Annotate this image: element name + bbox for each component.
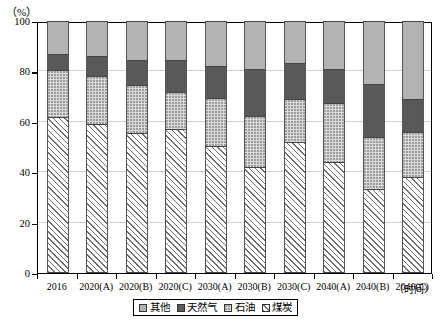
bar-segment-天然气 <box>323 69 345 103</box>
bar-segment-其他 <box>165 21 187 60</box>
x-axis-tick-label: 2030(C) <box>272 281 316 292</box>
bar-segment-煤炭 <box>86 124 108 273</box>
bar-2030(A) <box>205 21 227 273</box>
x-axis-tick-label: 2020(A) <box>74 281 118 292</box>
legend-label: 其他 <box>150 302 170 314</box>
x-axis-tick-label: 2030(A) <box>193 281 237 292</box>
bar-segment-煤炭 <box>47 117 69 273</box>
bar-2020(B) <box>126 21 148 273</box>
bar-segment-天然气 <box>126 60 148 85</box>
x-axis-tick-label: 2016 <box>35 281 79 292</box>
bar-segment-煤炭 <box>244 167 266 273</box>
x-axis-tick-mark <box>432 274 433 279</box>
bar-segment-石油 <box>244 116 266 168</box>
bar-segment-天然气 <box>165 60 187 92</box>
legend-swatch-煤炭 <box>262 304 270 312</box>
x-axis-tick-label: 2040(A) <box>311 281 355 292</box>
x-axis-tick-label: 2020(C) <box>153 281 197 292</box>
y-axis-tick-label: 0 <box>0 269 30 279</box>
bar-segment-煤炭 <box>323 162 345 273</box>
legend-label: 天然气 <box>187 302 217 314</box>
bar-segment-煤炭 <box>126 133 148 273</box>
bar-segment-石油 <box>402 132 424 177</box>
x-axis-tick-label: 2030(B) <box>232 281 276 292</box>
bar-2040(B) <box>363 21 385 273</box>
legend-item-煤炭[interactable]: 煤炭 <box>262 302 293 314</box>
bar-segment-其他 <box>86 21 108 56</box>
x-axis-tick-mark <box>77 274 78 279</box>
legend-swatch-石油 <box>224 304 232 312</box>
x-axis-tick-mark <box>156 274 157 279</box>
legend-item-石油[interactable]: 石油 <box>224 302 255 314</box>
bar-segment-其他 <box>126 21 148 60</box>
bar-segment-天然气 <box>86 56 108 76</box>
bar-2040(A) <box>323 21 345 273</box>
bar-segment-煤炭 <box>363 189 385 273</box>
bar-2030(B) <box>244 21 266 273</box>
bar-segment-其他 <box>244 21 266 69</box>
legend-label: 石油 <box>235 302 255 314</box>
legend-label: 煤炭 <box>272 302 292 314</box>
y-axis-tick-label: 60 <box>0 118 30 128</box>
bar-segment-煤炭 <box>284 142 306 273</box>
bar-segment-天然气 <box>363 84 385 137</box>
chart-legend: 其他天然气石油煤炭 <box>133 299 298 316</box>
bar-segment-天然气 <box>205 66 227 98</box>
bar-segment-其他 <box>47 21 69 54</box>
plot-area <box>37 22 432 274</box>
bar-2040(C) <box>402 21 424 273</box>
legend-item-其他[interactable]: 其他 <box>139 302 170 314</box>
bar-segment-天然气 <box>284 63 306 100</box>
y-axis-tick-label: 100 <box>0 17 30 27</box>
x-axis-tick-mark <box>393 274 394 279</box>
bar-segment-石油 <box>47 70 69 117</box>
bar-2020(C) <box>165 21 187 273</box>
legend-swatch-天然气 <box>177 304 185 312</box>
y-axis-tick-label: 40 <box>0 168 30 178</box>
bar-segment-其他 <box>205 21 227 66</box>
x-axis-tick-mark <box>314 274 315 279</box>
bar-segment-煤炭 <box>205 146 227 273</box>
x-axis-tick-label: 2040(B) <box>351 281 395 292</box>
bar-segment-天然气 <box>402 99 424 132</box>
bar-2016 <box>47 21 69 273</box>
bar-segment-石油 <box>126 85 148 133</box>
x-axis-tick-mark <box>274 274 275 279</box>
legend-item-天然气[interactable]: 天然气 <box>177 302 218 314</box>
x-axis-tick-mark <box>235 274 236 279</box>
bar-segment-煤炭 <box>165 129 187 273</box>
bar-segment-石油 <box>86 76 108 124</box>
bar-segment-煤炭 <box>402 177 424 273</box>
bar-segment-石油 <box>323 103 345 162</box>
stacked-bar-chart: （%） 020406080100 20162020(A)2020(B)2020(… <box>0 0 448 327</box>
bar-segment-天然气 <box>47 54 69 70</box>
bar-segment-其他 <box>402 21 424 99</box>
x-axis-tick-mark <box>37 274 38 279</box>
bar-2030(C) <box>284 21 306 273</box>
bar-segment-石油 <box>165 92 187 130</box>
bar-segment-石油 <box>363 137 385 189</box>
bar-segment-其他 <box>363 21 385 84</box>
bar-segment-其他 <box>284 21 306 63</box>
bar-group <box>38 23 431 273</box>
legend-swatch-其他 <box>139 304 147 312</box>
y-axis-tick-label: 20 <box>0 219 30 229</box>
bar-segment-天然气 <box>244 69 266 116</box>
x-axis-tick-mark <box>116 274 117 279</box>
x-axis-tick-mark <box>195 274 196 279</box>
x-axis-tick-label: 2020(B) <box>114 281 158 292</box>
bar-2020(A) <box>86 21 108 273</box>
x-axis-title: （时间） <box>394 281 434 296</box>
bar-segment-石油 <box>205 98 227 146</box>
bar-segment-其他 <box>323 21 345 69</box>
bar-segment-石油 <box>284 99 306 142</box>
y-axis-tick-label: 80 <box>0 67 30 77</box>
x-axis-tick-mark <box>353 274 354 279</box>
